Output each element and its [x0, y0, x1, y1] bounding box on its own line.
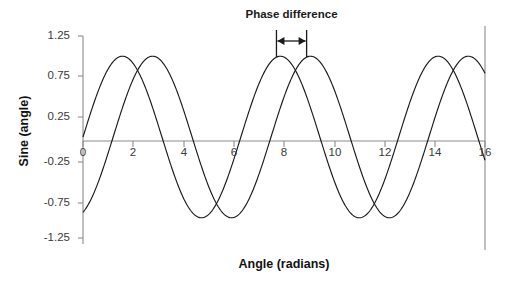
x-tick-label-12: 12: [372, 146, 398, 158]
sine-wave-plot: [0, 0, 516, 285]
x-tick-label-10: 10: [322, 146, 348, 158]
x-tick-label-16: 16: [472, 146, 498, 158]
y-tick-label-5: -0.75: [26, 196, 70, 208]
y-tick-label-1: 1.25: [26, 29, 70, 41]
x-tick-label-8: 8: [271, 146, 297, 158]
sine-curve-wave-1: [83, 56, 485, 218]
y-axis-title: Sine (angle): [17, 76, 31, 186]
chart-figure: Phase difference 1.25 0.75 0.25 -0.25 -0…: [0, 0, 516, 285]
x-tick-label-2: 2: [120, 146, 146, 158]
x-tick-label-0: 0: [70, 146, 96, 158]
phase-arrow-head-left-icon: [277, 37, 284, 45]
y-tick-label-3: 0.25: [26, 110, 70, 122]
phase-difference-annotation: [276, 30, 306, 57]
phase-arrow-head-right-icon: [299, 37, 306, 45]
sine-curve-wave-2: [83, 56, 485, 218]
x-tick-label-4: 4: [171, 146, 197, 158]
y-tick-label-6: -1.25: [26, 231, 70, 243]
x-tick-label-14: 14: [422, 146, 448, 158]
x-axis-title: Angle (radians): [83, 257, 485, 271]
x-tick-label-6: 6: [221, 146, 247, 158]
y-tick-label-4: -0.25: [26, 155, 70, 167]
y-tick-label-2: 0.75: [26, 69, 70, 81]
y-tick-marks: [78, 36, 83, 238]
phase-difference-label: Phase difference: [231, 8, 353, 20]
